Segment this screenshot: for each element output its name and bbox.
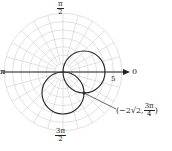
- label-3pi-over-2: 3π2: [55, 127, 66, 143]
- label-tick-5: 5: [111, 76, 115, 83]
- label-point: (−2√2, 3π4 ): [116, 103, 158, 118]
- polar-diagram: [0, 0, 172, 151]
- label-pi-over-2: π2: [57, 0, 64, 16]
- label-pi: π: [0, 68, 5, 76]
- arrow-icon: [123, 69, 130, 75]
- label-zero: 0: [132, 68, 137, 76]
